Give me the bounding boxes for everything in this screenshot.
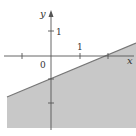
origin-label: 0: [40, 60, 46, 70]
inequality-graph: y x 0 1 1: [0, 0, 136, 136]
x-axis-label: x: [127, 55, 133, 66]
y-tick-label: 1: [56, 27, 62, 37]
x-tick-label: 1: [77, 42, 83, 52]
y-axis-label: y: [39, 8, 46, 19]
y-axis-arrow-icon: [49, 10, 54, 17]
